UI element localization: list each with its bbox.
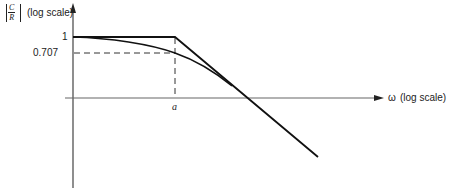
x-axis-label-suffix: (log scale) xyxy=(400,93,446,103)
y-axis-label-suffix: (log scale) xyxy=(27,8,73,18)
abs-bar-left xyxy=(6,4,7,22)
x-axis-omega-symbol: ω xyxy=(388,93,396,103)
y-tick-0707: 0.707 xyxy=(33,48,58,58)
x-axis-arrowhead xyxy=(374,95,384,101)
fraction-denominator: R xyxy=(8,13,15,22)
abs-bar-right xyxy=(20,4,21,22)
asymptotic-approximation-line xyxy=(73,37,318,157)
y-tick-1: 1 xyxy=(62,32,68,42)
y-axis-fraction: C R xyxy=(8,3,15,22)
x-tick-a: a xyxy=(172,102,177,112)
actual-response-curve xyxy=(73,37,232,86)
fraction-numerator: C xyxy=(8,3,15,13)
